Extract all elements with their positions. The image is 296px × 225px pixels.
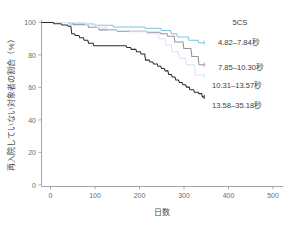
x-tick-label-100: 100 [89,192,101,199]
x-tick-label-400: 400 [223,192,235,199]
legend-item-label-2: 10.31–13.57秒 [212,80,262,90]
km-curves-group [42,22,205,99]
x-tick-label-500: 500 [267,192,279,199]
legend-title: 5CS [233,18,248,27]
y-tick-label-40: 40 [28,117,36,124]
x-tick-label-200: 200 [134,192,146,199]
km-curve-2 [42,22,205,75]
x-axis-title: 日数 [154,207,170,217]
kaplan-meier-chart: 100 80 60 40 20 0 0 100 200 300 400 500 … [0,0,296,225]
y-tick-label-80: 80 [28,52,36,59]
y-axis-title: 再入院していない対象者の割合（%） [6,35,16,170]
y-tick-label-0: 0 [32,182,36,189]
km-curve-3 [42,22,205,96]
legend-item-label-1: 7.85–10.30秒 [218,62,264,72]
y-tick-label-20: 20 [28,149,36,156]
y-tick-label-60: 60 [28,84,36,91]
x-tick-label-0: 0 [49,192,53,199]
legend-item-label-0: 4.82–7.84秒 [218,37,260,47]
x-tick-label-300: 300 [178,192,190,199]
chart-legend: 5CS 4.82–7.84秒 7.85–10.30秒 10.31–13.57秒 … [212,18,264,110]
chart-plot-area: 100 80 60 40 20 0 0 100 200 300 400 500 … [0,0,296,225]
legend-item-label-3: 13.58–35.18秒 [212,100,262,110]
y-tick-label-100: 100 [24,19,36,26]
